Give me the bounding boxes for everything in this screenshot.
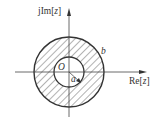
- real-axis-label: Re[z]: [129, 76, 150, 86]
- outer-radius-label: b: [101, 46, 106, 56]
- inner-radius-label: a: [71, 74, 76, 84]
- z-plane-diagram: jIm[z] Re[z] O a b: [0, 0, 162, 120]
- imag-axis-label: jIm[z]: [37, 6, 61, 16]
- annulus-hatch: [0, 0, 162, 120]
- origin-label: O: [58, 62, 65, 72]
